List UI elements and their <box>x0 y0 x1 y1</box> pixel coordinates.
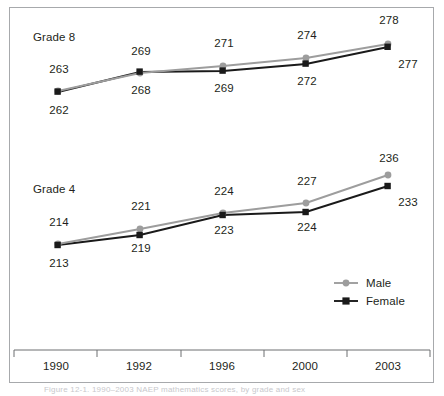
legend-item-female: Female <box>366 295 405 307</box>
x-tick-label: 1996 <box>209 360 235 372</box>
value-label-grade8-female: 269 <box>214 82 234 94</box>
legend-item-male: Male <box>366 277 391 289</box>
value-label-grade4-male: 227 <box>297 175 317 187</box>
value-label-grade8-male: 263 <box>49 63 69 75</box>
value-label-grade8-male: 274 <box>297 29 317 41</box>
value-label-grade8-male: 278 <box>379 14 399 26</box>
value-label-grade8-female: 272 <box>297 75 317 87</box>
x-tick-label: 1990 <box>43 360 69 372</box>
value-label-grade4-female: 219 <box>131 242 151 254</box>
value-label-grade8-female: 268 <box>131 84 151 96</box>
x-tick-label: 1992 <box>126 360 152 372</box>
value-label-grade4-male: 214 <box>49 216 69 228</box>
panel-label-grade8: Grade 8 <box>33 31 75 43</box>
value-label-grade4-female: 213 <box>49 257 69 269</box>
value-label-grade4-male: 224 <box>214 185 234 197</box>
figure-caption: Figure 12-1. 1990–2003 NAEP mathematics … <box>44 385 434 394</box>
value-label-grade8-female: 262 <box>49 104 69 116</box>
value-label-grade4-male: 221 <box>131 200 151 212</box>
panel-label-grade4: Grade 4 <box>33 183 75 195</box>
value-label-grade8-female: 277 <box>398 58 418 70</box>
value-label-grade8-male: 269 <box>131 45 151 57</box>
x-tick-label: 2003 <box>375 360 401 372</box>
value-label-grade4-female: 223 <box>214 224 234 236</box>
x-tick-label: 2000 <box>292 360 318 372</box>
value-label-grade4-male: 236 <box>379 152 399 164</box>
figure-root: Grade 8 Grade 4 263 269 271 274 278 262 … <box>0 0 444 396</box>
value-label-grade4-female: 233 <box>398 196 418 208</box>
value-label-grade8-male: 271 <box>214 37 234 49</box>
value-label-grade4-female: 224 <box>297 221 317 233</box>
